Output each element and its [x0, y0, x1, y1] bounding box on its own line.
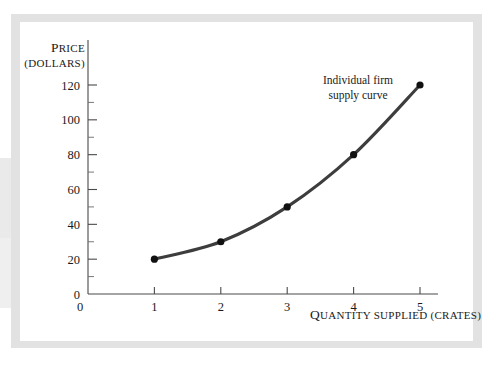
y-axis-title-rest: RICE: [59, 42, 85, 54]
y-axis-units: (DOLLARS): [24, 57, 85, 70]
x-axis-title-rest: UANTITY SUPPLIED: [320, 309, 430, 321]
x-tick-label: 2: [218, 300, 224, 314]
data-point: [217, 238, 224, 245]
y-axis-ticks: 020406080100120: [61, 79, 97, 302]
y-tick-label: 80: [68, 148, 81, 162]
supply-curve-points: [151, 81, 424, 262]
y-axis-title: PRICE: [51, 40, 85, 55]
annotation-line-1: Individual firm: [323, 74, 393, 86]
x-tick-label: 1: [151, 300, 157, 314]
y-axis-title-lead: P: [51, 40, 59, 55]
data-point: [284, 203, 291, 210]
x-axis-title: QUANTITY SUPPLIED (CRATES): [310, 307, 481, 322]
supply-curve-line: [154, 85, 420, 259]
data-point: [350, 151, 357, 158]
x-axis-title-paren: (CRATES): [430, 309, 481, 322]
y-tick-label: 120: [61, 79, 80, 93]
data-point: [151, 256, 158, 263]
y-tick-label: 100: [61, 113, 80, 127]
y-tick-label: 20: [68, 253, 81, 267]
supply-curve-chart: 020406080100120 012345 PRICE (DOLLARS) Q…: [0, 0, 493, 367]
y-tick-label: 60: [68, 183, 81, 197]
x-tick-label: 0: [77, 300, 83, 314]
x-tick-label: 3: [284, 300, 290, 314]
annotation-line-2: supply curve: [328, 89, 387, 102]
page-root: 020406080100120 012345 PRICE (DOLLARS) Q…: [0, 0, 493, 367]
data-point: [416, 81, 423, 88]
x-axis-title-lead: Q: [310, 307, 320, 322]
y-tick-label: 40: [68, 218, 81, 232]
